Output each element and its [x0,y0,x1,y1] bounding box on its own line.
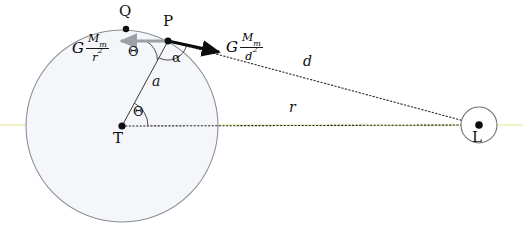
point-dot-P [165,38,172,45]
length-label-a: a [152,74,160,88]
angle-label-theta-at-T: Θ [133,105,144,118]
point-label-L: L [472,130,482,145]
force-label-right-denominator: d2 [243,48,259,62]
force-label-left-G: G [72,41,84,56]
force-label-left-fraction: Mm r2 [86,33,109,63]
point-label-Q: Q [119,4,131,19]
force-label-right-numerator-base: M [242,31,253,44]
force-label-G-Mm-over-r-squared: G Mm r2 [72,33,109,63]
force-label-right-fraction: Mm d2 [240,32,263,62]
force-label-right-G: G [226,40,238,55]
point-dot-Q [123,26,129,32]
force-label-left-denominator-exponent: 2 [98,46,103,55]
angle-label-theta-at-P: Θ [128,45,139,58]
force-label-right-denominator-exponent: 2 [252,45,257,54]
force-label-G-Mm-over-d-squared: G Mm d2 [226,32,263,62]
diagram-canvas: Q P T L a d r Θ Θ α G Mm r2 G Mm d2 [0,0,523,232]
point-label-P: P [163,14,173,29]
force-label-left-denominator: r2 [90,49,104,63]
angle-label-alpha-at-P: α [172,51,181,64]
point-label-T: T [113,131,123,146]
length-label-d: d [303,54,312,68]
force-label-left-numerator-base: M [88,32,99,45]
length-label-r: r [289,100,296,114]
force-label-left-denominator-base: r [92,51,97,64]
